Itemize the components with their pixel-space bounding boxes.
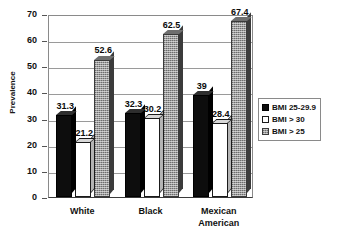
bar-front-face — [75, 142, 91, 197]
y-axis-tick-label: 50 — [11, 62, 37, 71]
y-axis-tick-label: 20 — [11, 141, 37, 150]
legend-item-label: BMI > 30 — [272, 115, 305, 124]
bar — [193, 95, 209, 197]
gridline — [49, 42, 252, 43]
gridline — [49, 94, 252, 95]
bar — [56, 115, 72, 197]
y-axis-tick-mark — [42, 15, 47, 16]
y-axis-tick-label: 40 — [11, 88, 37, 97]
bar-front-face — [56, 115, 72, 197]
bar — [94, 60, 110, 198]
bar — [231, 21, 247, 197]
legend-item[interactable]: BMI 25-29.9 — [262, 102, 317, 113]
legend-swatch-icon — [262, 128, 269, 135]
bar — [144, 118, 160, 197]
legend-item[interactable]: BMI > 25 — [262, 126, 317, 137]
bar-front-face — [94, 60, 110, 198]
y-axis-tick-mark — [42, 93, 47, 94]
bar-front-face — [125, 113, 141, 197]
bar-side-face — [110, 51, 114, 193]
bar-side-face — [72, 106, 76, 193]
chart-legend: BMI 25-29.9BMI > 30BMI > 25 — [258, 98, 321, 141]
y-axis-tick-label: 70 — [11, 10, 37, 19]
y-axis-tick-label: 10 — [11, 167, 37, 176]
x-axis-category-label: Black — [116, 205, 184, 217]
y-axis-tick-mark — [42, 198, 47, 199]
bar — [125, 113, 141, 197]
gridline — [49, 68, 252, 69]
legend-item-label: BMI 25-29.9 — [272, 103, 316, 112]
bar-side-face — [141, 104, 145, 193]
chart-canvas: Prevalence BMI 25-29.9BMI > 30BMI > 25 0… — [0, 0, 341, 241]
legend-swatch-icon — [262, 104, 269, 111]
y-axis-tick-label: 0 — [11, 193, 37, 202]
legend-item-label: BMI > 25 — [272, 127, 305, 136]
bar-side-face — [91, 133, 95, 193]
bar-front-face — [231, 21, 247, 197]
y-axis-tick-mark — [42, 41, 47, 42]
bar-side-face — [209, 86, 213, 193]
bar-front-face — [144, 118, 160, 197]
y-axis-tick-mark — [42, 146, 47, 147]
bar-side-face — [247, 12, 251, 193]
x-axis-category-label: Mexican American — [185, 205, 253, 229]
bar-side-face — [160, 109, 164, 193]
bar — [163, 34, 179, 197]
x-axis-category-label: White — [48, 205, 116, 217]
bar — [75, 142, 91, 197]
bar-front-face — [163, 34, 179, 197]
bar-side-face — [228, 114, 232, 193]
y-axis-tick-mark — [42, 172, 47, 173]
y-axis-tick-label: 30 — [11, 115, 37, 124]
y-axis-tick-mark — [42, 120, 47, 121]
legend-swatch-icon — [262, 116, 269, 123]
y-axis-tick-mark — [42, 67, 47, 68]
y-axis-tick-label: 60 — [11, 36, 37, 45]
bar-front-face — [212, 123, 228, 197]
legend-item[interactable]: BMI > 30 — [262, 114, 317, 125]
bar-side-face — [179, 25, 183, 193]
bar — [212, 123, 228, 197]
bar-front-face — [193, 95, 209, 197]
